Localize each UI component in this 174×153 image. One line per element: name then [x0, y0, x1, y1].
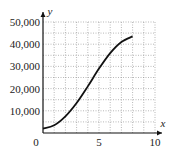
svg-text:0: 0: [33, 136, 39, 148]
svg-text:40,000: 40,000: [10, 38, 41, 50]
tick-labels: 10,00020,00030,00040,00050,0000510xy: [10, 5, 166, 148]
svg-text:20,000: 20,000: [10, 83, 41, 95]
svg-text:10,000: 10,000: [10, 105, 41, 117]
axes: [41, 12, 163, 136]
svg-text:50,000: 50,000: [10, 16, 41, 28]
svg-text:30,000: 30,000: [10, 60, 41, 72]
grid: [43, 22, 155, 133]
svg-text:x: x: [160, 117, 166, 129]
chart: 10,00020,00030,00040,00050,0000510xy: [0, 0, 174, 153]
svg-text:10: 10: [150, 136, 162, 148]
svg-text:y: y: [47, 5, 53, 17]
svg-text:5: 5: [96, 136, 102, 148]
